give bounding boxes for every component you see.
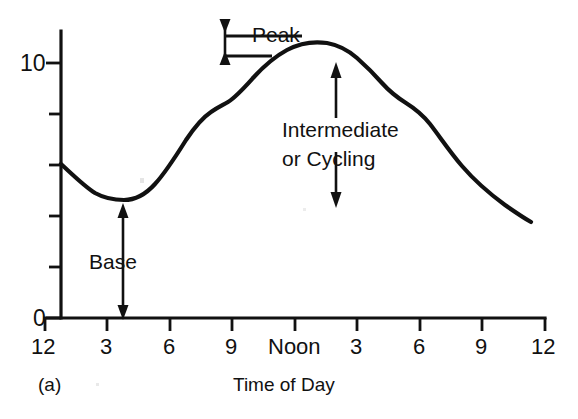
- x-tick-label-6: 6: [413, 334, 425, 360]
- scan-speck: [140, 178, 144, 183]
- peak-annotation-label: Peak: [252, 23, 300, 47]
- scan-speck: [303, 208, 306, 211]
- panel-label: (a): [38, 374, 61, 396]
- x-axis-ticks: [45, 318, 545, 331]
- x-tick-label-1: 3: [100, 334, 112, 360]
- x-axis-title: Time of Day: [233, 374, 335, 396]
- x-tick-label-7: 9: [475, 334, 487, 360]
- x-tick-label-4: Noon: [268, 334, 321, 360]
- intermediate-annotation-label-line2: or Cycling: [282, 147, 375, 171]
- y-tick-label-0: 0: [33, 305, 46, 332]
- x-tick-label-8: 12: [531, 334, 555, 360]
- x-tick-label-5: 3: [350, 334, 362, 360]
- load-curve-figure: 10 0 12 3 6 9 Noon 3 6 9 12 Base Peak In…: [0, 0, 578, 419]
- y-axis-ticks: [46, 63, 61, 318]
- intermediate-annotation-label-line1: Intermediate: [282, 118, 399, 142]
- x-tick-label-0: 12: [31, 334, 55, 360]
- x-tick-label-3: 9: [225, 334, 237, 360]
- y-tick-label-10: 10: [20, 50, 46, 77]
- scan-speck: [96, 383, 99, 386]
- x-tick-label-2: 6: [163, 334, 175, 360]
- base-annotation-label: Base: [89, 250, 137, 274]
- scan-speck: [300, 345, 305, 348]
